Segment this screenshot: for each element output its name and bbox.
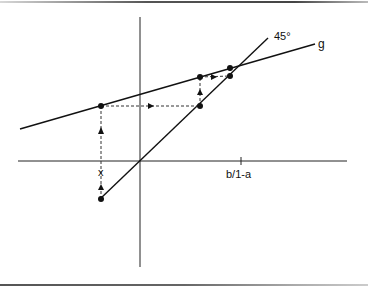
cobweb-diagram: 45° g b/1-a x: [0, 0, 368, 288]
arrow-right-icon: [148, 103, 154, 109]
label-x: x: [98, 166, 104, 178]
label-45-degree: 45°: [274, 30, 291, 42]
g-line: [20, 44, 315, 129]
arrow-right-icon: [211, 74, 217, 80]
arrow-up-icon: [197, 89, 203, 95]
arrow-icons: [98, 74, 217, 190]
arrow-up-icon: [98, 184, 104, 190]
label-g: g: [318, 37, 325, 51]
arrow-up-icon: [98, 127, 104, 134]
label-equilibrium: b/1-a: [226, 168, 252, 180]
